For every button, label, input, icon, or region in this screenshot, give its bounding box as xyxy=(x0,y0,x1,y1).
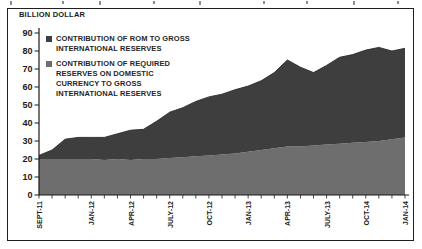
svg-text:APR-13: APR-13 xyxy=(284,201,291,226)
svg-text:OCT-12: OCT-12 xyxy=(206,201,213,226)
svg-text:JAN-13: JAN-13 xyxy=(245,201,252,225)
legend-label-line: RESERVES ON DOMESTIC xyxy=(56,69,170,79)
svg-text:50: 50 xyxy=(22,100,32,110)
svg-text:90: 90 xyxy=(22,28,32,38)
svg-text:JULY-12: JULY-12 xyxy=(167,201,174,228)
svg-text:40: 40 xyxy=(22,118,32,128)
legend-label-rom: CONTRIBUTION OF ROM TO GROSS INTERNATION… xyxy=(56,34,190,54)
legend-item-required-reserves: CONTRIBUTION OF REQUIRED RESERVES ON DOM… xyxy=(46,59,196,99)
svg-text:80: 80 xyxy=(22,46,32,56)
svg-text:60: 60 xyxy=(22,82,32,92)
legend-label-line: INTERNATIONAL RESERVES xyxy=(56,44,190,54)
legend-label-line: CONTRIBUTION OF REQUIRED xyxy=(56,59,170,69)
svg-text:JAN-12: JAN-12 xyxy=(88,201,95,225)
svg-text:SEPT-11: SEPT-11 xyxy=(36,201,43,229)
chart-legend: CONTRIBUTION OF ROM TO GROSS INTERNATION… xyxy=(46,34,196,104)
svg-text:JAN-14: JAN-14 xyxy=(402,201,409,225)
svg-text:APR-12: APR-12 xyxy=(128,201,135,226)
legend-label-required-reserves: CONTRIBUTION OF REQUIRED RESERVES ON DOM… xyxy=(56,59,170,99)
y-axis-title: BILLION DOLLAR xyxy=(19,10,85,19)
legend-label-line: CONTRIBUTION OF ROM TO GROSS xyxy=(56,34,190,44)
legend-swatch-required-reserves-icon xyxy=(46,61,52,67)
figure-root: 0102030405060708090SEPT-11JAN-12APR-12JU… xyxy=(0,0,422,249)
legend-label-line: CURRENCY TO GROSS xyxy=(56,79,170,89)
legend-label-line: INTERNATIONAL RESERVES xyxy=(56,89,170,99)
svg-text:10: 10 xyxy=(22,172,32,182)
svg-text:JULY-13: JULY-13 xyxy=(324,201,331,228)
svg-text:30: 30 xyxy=(22,136,32,146)
svg-text:70: 70 xyxy=(22,64,32,74)
svg-text:0: 0 xyxy=(27,190,32,200)
legend-item-rom: CONTRIBUTION OF ROM TO GROSS INTERNATION… xyxy=(46,34,196,54)
legend-swatch-rom-icon xyxy=(46,36,52,42)
svg-text:20: 20 xyxy=(22,154,32,164)
svg-text:OCT-14: OCT-14 xyxy=(363,201,370,226)
